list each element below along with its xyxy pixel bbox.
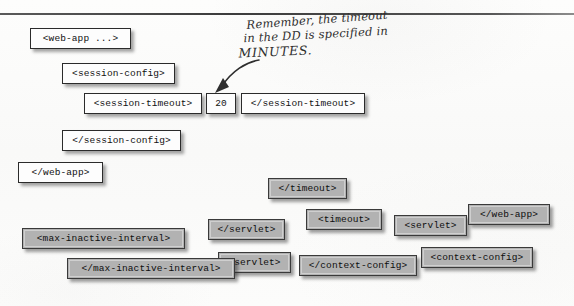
tag-max-inactive-interval[interactable]: <max-inactive-interval> xyxy=(22,228,185,249)
tag-timeout[interactable]: <timeout> xyxy=(306,209,382,230)
figure-canvas: Remember, the timeout in the DD is speci… xyxy=(0,0,574,306)
tag-max-inactive-interval[interactable]: </max-inactive-interval> xyxy=(67,258,235,279)
tag-servlet[interactable]: </servlet> xyxy=(208,219,285,240)
tag-servlet[interactable]: <servlet> xyxy=(394,215,467,236)
tag-session-config[interactable]: <session-config> xyxy=(62,63,175,84)
tag-context-config[interactable]: <context-config> xyxy=(421,247,533,268)
tag-timeout[interactable]: </timeout> xyxy=(268,178,347,199)
tag-session-config[interactable]: </session-config> xyxy=(62,130,181,151)
curved-arrow-icon xyxy=(210,58,262,96)
tag-session-timeout[interactable]: </session-timeout> xyxy=(241,93,365,114)
tag-20[interactable]: 20 xyxy=(206,93,236,114)
tag-web-app[interactable]: </web-app> xyxy=(18,162,103,183)
tag-web-app[interactable]: <web-app ...> xyxy=(30,28,131,49)
tag-session-timeout[interactable]: <session-timeout> xyxy=(84,93,202,114)
tag-web-app[interactable]: </web-app> xyxy=(468,204,550,225)
tag-context-config[interactable]: </context-config> xyxy=(299,255,417,276)
